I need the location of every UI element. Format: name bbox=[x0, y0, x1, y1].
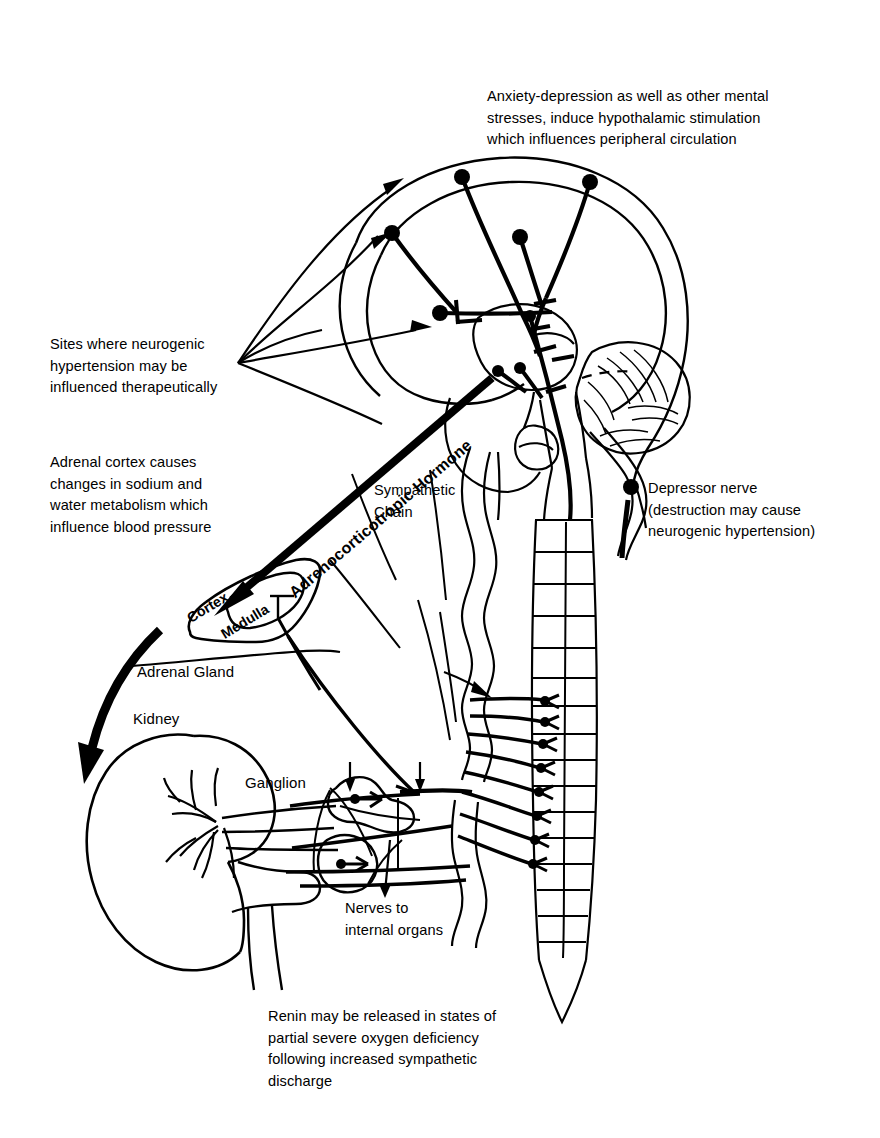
cortical-neurons bbox=[384, 169, 598, 520]
ganglion-upper bbox=[328, 777, 414, 832]
label-adrenal-gland: Adrenal Gland bbox=[137, 661, 234, 683]
label-pointer-arrows bbox=[314, 762, 425, 898]
caption-adrenal-cortex: Adrenal cortex causes changes in sodium … bbox=[50, 452, 211, 538]
neurogenic-hypertension-diagram bbox=[0, 0, 880, 1138]
caption-anxiety-depression: Anxiety-depression as well as other ment… bbox=[487, 86, 769, 151]
caption-renin: Renin may be released in states of parti… bbox=[268, 1006, 496, 1092]
label-ganglion: Ganglion bbox=[245, 772, 306, 794]
caption-nerves-to-internal-organs: Nerves to internal organs bbox=[345, 898, 443, 941]
head-outline bbox=[340, 158, 688, 480]
label-kidney: Kidney bbox=[133, 708, 179, 730]
adrenal-to-kidney-arrow bbox=[78, 630, 160, 784]
caption-depressor-nerve: Depressor nerve (destruction may cause n… bbox=[648, 478, 815, 543]
spinal-nerve-roots bbox=[458, 695, 559, 871]
caption-therapeutic-sites: Sites where neurogenic hypertension may … bbox=[50, 334, 217, 399]
